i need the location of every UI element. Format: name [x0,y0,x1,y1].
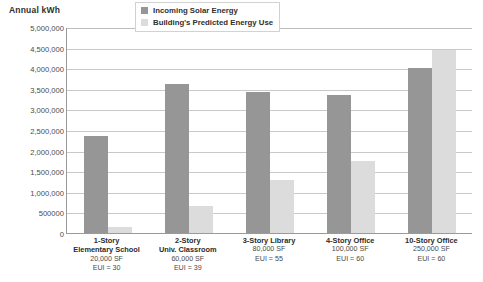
bar-group [392,28,473,233]
x-axis-category-area: 100,000 SF [310,245,391,254]
bar-group [311,28,392,233]
bar-predicted-energy-use[interactable] [270,180,294,233]
plot-area [66,28,472,234]
y-axis-tick-label: 1,500,000 [2,168,64,177]
x-axis-category-eui: EUI = 39 [147,264,228,273]
y-axis-tick-label: 1,000,000 [2,188,64,197]
x-axis-category-name: 3-Story Library [228,236,309,245]
bar-incoming-solar-energy[interactable] [84,136,108,233]
x-axis-category-eui: EUI = 60 [310,255,391,264]
x-axis-category-eui: EUI = 55 [228,255,309,264]
y-axis-tick-label: 0 [2,230,64,239]
x-axis-category-label: 10-Story Office250,000 SFEUI = 60 [391,236,472,264]
legend-item-label: Incoming Solar Energy [153,6,238,15]
legend-swatch-icon [141,7,148,14]
bar-group [229,28,310,233]
y-axis-tick-label: 3,500,000 [2,85,64,94]
x-axis-labels: 1-StoryElementary School20,000 SFEUI = 3… [66,236,472,282]
x-axis-category-name-line2: Elementary School [66,245,147,254]
x-axis-category-name: 2-Story [147,236,228,245]
x-axis-category-name: 1-Story [66,236,147,245]
bar-predicted-energy-use[interactable] [351,161,375,233]
x-axis-category-name: 4-Story Office [310,236,391,245]
x-axis-category-area: 20,000 SF [66,255,147,264]
x-axis-category-name-line2: Univ. Classroom [147,245,228,254]
bar-incoming-solar-energy[interactable] [408,68,432,233]
bar-predicted-energy-use[interactable] [108,227,132,233]
chart-legend: Incoming Solar EnergyBuilding's Predicte… [135,2,280,32]
x-axis-category-name: 10-Story Office [391,236,472,245]
bar-incoming-solar-energy[interactable] [327,95,351,233]
y-axis-tick-label: 4,000,000 [2,65,64,74]
bar-group [148,28,229,233]
y-axis-tick-label: 500000 [2,209,64,218]
y-axis-tick-label: 2,000,000 [2,147,64,156]
bar-chart: Annual kWh 5,000,0004,500,0004,000,0003,… [0,0,483,282]
y-axis-tick-label: 3,000,000 [2,106,64,115]
x-axis-category-label: 1-StoryElementary School20,000 SFEUI = 3… [66,236,147,273]
legend-item[interactable]: Incoming Solar Energy [141,6,273,15]
bar-group [67,28,148,233]
y-axis-tick-label: 5,000,000 [2,24,64,33]
x-axis-category-label: 3-Story Library80,000 SFEUI = 55 [228,236,309,264]
x-axis-category-label: 2-StoryUniv. Classroom60,000 SFEUI = 39 [147,236,228,273]
bar-predicted-energy-use[interactable] [432,50,456,233]
y-axis-labels: 5,000,0004,500,0004,000,0003,500,0003,00… [0,0,64,282]
y-axis-tick-label: 4,500,000 [2,44,64,53]
x-axis-category-area: 60,000 SF [147,255,228,264]
bar-predicted-energy-use[interactable] [189,206,213,233]
y-axis-tick-label: 2,500,000 [2,127,64,136]
x-axis-category-label: 4-Story Office100,000 SFEUI = 60 [310,236,391,264]
x-axis-category-eui: EUI = 30 [66,264,147,273]
x-axis-category-area: 250,000 SF [391,245,472,254]
x-axis-category-eui: EUI = 60 [391,255,472,264]
legend-item[interactable]: Building's Predicted Energy Use [141,18,273,27]
x-axis-category-area: 80,000 SF [228,245,309,254]
bar-incoming-solar-energy[interactable] [165,84,189,233]
bars-layer [67,28,472,233]
legend-swatch-icon [141,19,148,26]
bar-incoming-solar-energy[interactable] [246,92,270,233]
legend-item-label: Building's Predicted Energy Use [153,18,273,27]
